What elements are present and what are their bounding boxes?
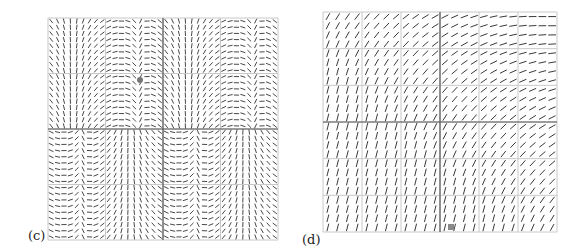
vector-field-canvas — [0, 0, 577, 252]
marker-dot — [137, 77, 143, 83]
marker-square — [448, 224, 454, 230]
panel-c-label: (c) — [28, 228, 45, 243]
panel-d — [323, 12, 557, 232]
panel-c — [48, 18, 278, 240]
panel-d-label: (d) — [302, 232, 320, 247]
